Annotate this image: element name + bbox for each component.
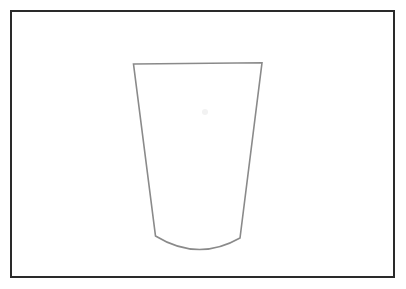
drawing-canvas (0, 0, 406, 289)
border-rectangle (11, 11, 394, 277)
border-frame (0, 0, 406, 289)
